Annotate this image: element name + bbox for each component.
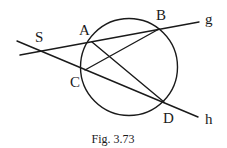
segment-CB — [85, 29, 159, 70]
segment-AD — [92, 42, 164, 102]
point-label-C: C — [70, 74, 80, 90]
point-label-A: A — [79, 22, 90, 38]
line-g — [20, 22, 199, 55]
point-label-B: B — [156, 7, 166, 23]
geometry-figure: S A B C D g h Fig. 3.73 — [0, 0, 227, 148]
line-label-g: g — [205, 11, 213, 27]
figure-caption: Fig. 3.73 — [91, 132, 134, 146]
line-h — [17, 41, 198, 117]
point-label-D: D — [163, 110, 174, 126]
line-label-h: h — [205, 111, 213, 127]
point-label-S: S — [35, 29, 43, 45]
